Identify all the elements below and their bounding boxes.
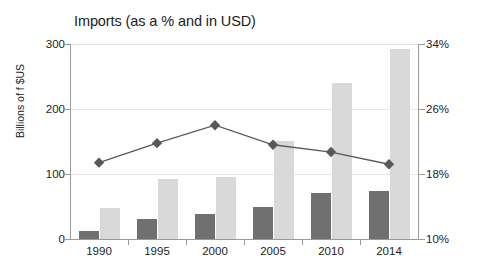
bar-2000-series-1 (195, 214, 215, 239)
x-tick-mark-2014 (360, 240, 361, 245)
bar-2000-series-2 (216, 177, 236, 239)
x-tick-mark-2010 (302, 240, 303, 245)
bar-2010-series-2 (332, 83, 352, 239)
y-tick-mark-right-2 (419, 109, 425, 110)
y-tick-mark-right-3 (419, 44, 425, 45)
y-tick-mark-right-1 (419, 174, 425, 175)
bar-2005-series-1 (253, 207, 273, 239)
imports-chart: Imports (as a % and in USD) Billions of … (0, 0, 480, 279)
y-tick-mark-left-2 (64, 109, 70, 110)
bar-1990-series-2 (100, 208, 120, 239)
gridline (70, 44, 418, 45)
y-tick-mark-left-3 (64, 44, 70, 45)
y-tick-label-right-2: 26% (426, 103, 480, 115)
y-axis-label-left: Billions of f $US (14, 41, 26, 161)
y-tick-label-left-2: 200 (5, 103, 65, 115)
y-tick-mark-right-0 (419, 239, 425, 240)
y-tick-label-left-0: 0 (5, 233, 65, 245)
chart-title: Imports (as a % and in USD) (74, 13, 256, 29)
gridline (70, 109, 418, 110)
y-axis-right-spine (418, 44, 419, 240)
bar-1995-series-2 (158, 179, 178, 239)
y-tick-label-left-1: 100 (5, 168, 65, 180)
x-tick-mark-2000 (186, 240, 187, 245)
y-axis-left-spine (70, 44, 71, 240)
bar-2010-series-1 (311, 193, 331, 239)
y-tick-label-right-3: 34% (426, 38, 480, 50)
y-tick-label-right-1: 18% (426, 168, 480, 180)
x-tick-mark-1995 (128, 240, 129, 245)
bar-2014-series-1 (369, 191, 389, 239)
y-tick-label-right-0: 10% (426, 233, 480, 245)
y-tick-label-left-3: 300 (5, 38, 65, 50)
bar-2014-series-2 (390, 49, 410, 239)
y-tick-mark-left-0 (64, 239, 70, 240)
plot-area (70, 44, 418, 239)
x-tick-label-2014: 2014 (354, 245, 424, 257)
bar-1995-series-1 (137, 219, 157, 239)
x-tick-mark-2005 (244, 240, 245, 245)
bar-2005-series-2 (274, 141, 294, 239)
gridline (70, 174, 418, 175)
y-tick-mark-left-1 (64, 174, 70, 175)
bar-1990-series-1 (79, 231, 99, 239)
